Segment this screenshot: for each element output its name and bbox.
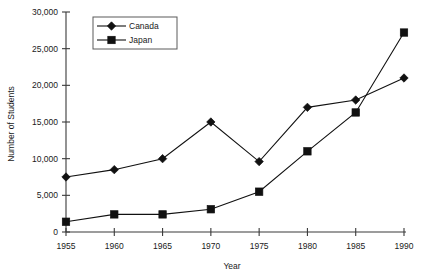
- x-tick-label: 1990: [395, 241, 414, 251]
- x-tick-label: 1955: [57, 241, 76, 251]
- data-point-square-icon: [111, 211, 118, 218]
- series-line-canada: [66, 78, 404, 177]
- data-point-diamond-icon: [110, 165, 118, 173]
- data-point-square-icon: [159, 211, 166, 218]
- x-tick-label: 1960: [105, 241, 124, 251]
- y-axis-tick-labels: 05,00010,00015,00020,00025,00030,000: [32, 7, 58, 237]
- legend-marker-japan-icon: [108, 36, 115, 43]
- x-axis: 19551960196519701975198019851990: [57, 228, 414, 251]
- data-point-square-icon: [255, 188, 262, 195]
- y-tick-label: 20,000: [32, 80, 58, 90]
- x-tick-label: 1980: [298, 241, 317, 251]
- x-tick-label: 1970: [201, 241, 220, 251]
- series-japan: [62, 29, 407, 226]
- line-chart: 05,00010,00015,00020,00025,00030,000 195…: [0, 0, 430, 276]
- series-canada: [62, 74, 408, 181]
- data-point-square-icon: [304, 148, 311, 155]
- x-axis-title: Year: [223, 261, 240, 271]
- y-tick-label: 30,000: [32, 7, 58, 17]
- data-point-square-icon: [400, 29, 407, 36]
- data-point-square-icon: [352, 109, 359, 116]
- y-axis-title: Number of Students: [6, 86, 16, 162]
- legend-label-japan: Japan: [129, 35, 152, 45]
- y-tick-label: 0: [53, 227, 58, 237]
- y-tick-label: 10,000: [32, 154, 58, 164]
- x-tick-label: 1985: [346, 241, 365, 251]
- x-tick-label: 1965: [153, 241, 172, 251]
- x-axis-tick-labels: 19551960196519701975198019851990: [57, 241, 414, 251]
- data-point-diamond-icon: [352, 96, 360, 104]
- data-point-diamond-icon: [158, 154, 166, 162]
- series-plot-area: [62, 29, 408, 226]
- y-axis: 05,00010,00015,00020,00025,00030,000: [32, 7, 70, 237]
- y-tick-label: 25,000: [32, 44, 58, 54]
- data-point-square-icon: [62, 218, 69, 225]
- chart-legend: CanadaJapan: [93, 17, 177, 49]
- y-tick-label: 5,000: [37, 190, 59, 200]
- series-line-japan: [66, 33, 404, 222]
- x-tick-label: 1975: [250, 241, 269, 251]
- data-point-diamond-icon: [62, 173, 70, 181]
- legend-label-canada: Canada: [129, 21, 159, 31]
- chart-canvas: 05,00010,00015,00020,00025,00030,000 195…: [0, 0, 430, 276]
- data-point-square-icon: [207, 206, 214, 213]
- y-tick-label: 15,000: [32, 117, 58, 127]
- data-point-diamond-icon: [400, 74, 408, 82]
